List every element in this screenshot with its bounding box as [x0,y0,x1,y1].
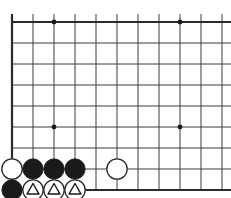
black-stone-disc [23,159,43,179]
white-stone-f1-triangle[interactable] [65,180,85,198]
black-stone-d2[interactable] [23,159,43,179]
black-stone-disc [44,159,64,179]
white-stone-disc [65,180,85,198]
white-stone-e1-triangle[interactable] [44,180,64,198]
white-stone-i2[interactable] [107,159,127,179]
white-stone-disc [107,159,127,179]
black-stone-e2[interactable] [44,159,64,179]
black-stone-c1[interactable] [2,180,22,198]
black-stone-disc [65,159,85,179]
star-point-top-right [178,20,183,25]
go-board-corner-diagram [0,0,231,198]
star-point-top-left [52,20,57,25]
black-stone-f2[interactable] [65,159,85,179]
star-point-bottom-left [52,125,57,130]
star-point-bottom-right [178,125,183,130]
white-stone-disc [44,180,64,198]
white-stone-disc [23,180,43,198]
white-stone-disc [2,159,22,179]
white-stone-d1-triangle[interactable] [23,180,43,198]
goban-svg[interactable] [0,0,231,198]
black-stone-disc [2,180,22,198]
white-stone-c2[interactable] [2,159,22,179]
